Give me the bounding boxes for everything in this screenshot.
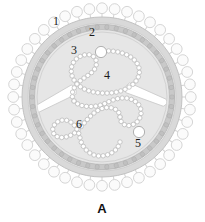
- nucleocapsid-bead: [127, 85, 131, 89]
- nucleocapsid-bead: [87, 53, 91, 57]
- surface-spike-glycoprotein: [16, 128, 30, 139]
- nucleocapsid-bead: [68, 133, 72, 137]
- matrix-ring-segment: [30, 104, 35, 109]
- surface-spike-glycoprotein: [11, 117, 26, 128]
- nucleocapsid-bead: [137, 66, 141, 70]
- surface-spike-glycoprotein: [122, 6, 133, 21]
- panel-letter: A: [97, 201, 107, 216]
- nucleocapsid-bead: [119, 119, 123, 123]
- nucleocapsid-bead: [106, 49, 110, 53]
- surface-spike-glycoprotein: [145, 163, 156, 177]
- virus-particle-figure: 123456 A: [0, 0, 205, 222]
- nucleocapsid-bead: [89, 104, 93, 108]
- surface-spike-glycoprotein: [29, 33, 42, 45]
- surface-spike-glycoprotein: [72, 173, 83, 188]
- surface-spike-glycoprotein: [174, 55, 188, 66]
- nucleocapsid-bead: [124, 53, 128, 57]
- nucleocapsid-bead: [72, 78, 76, 82]
- surface-spike-glycoprotein: [168, 140, 182, 151]
- matrix-ring-segment: [169, 104, 174, 109]
- nucleocapsid-bead: [116, 50, 120, 54]
- nucleocapsid-bead: [92, 153, 96, 157]
- nucleocapsid-bead: [88, 151, 92, 155]
- nucleocapsid-bead: [60, 118, 64, 122]
- nucleocapsid-bead: [96, 91, 100, 95]
- surface-spike-glycoprotein: [145, 17, 156, 31]
- nucleocapsid-bead: [91, 90, 95, 94]
- matrix-ring-segment: [30, 85, 35, 90]
- surface-spike-glycoprotein: [180, 79, 195, 90]
- callout-label-2: 2: [89, 25, 95, 39]
- surface-spike-glycoprotein: [162, 33, 175, 45]
- callout-label-6: 6: [76, 117, 82, 131]
- nucleocapsid-bead: [111, 98, 115, 102]
- surface-spike-glycoprotein: [109, 175, 120, 190]
- nucleocapsid-bead: [60, 135, 64, 139]
- surface-spike-glycoprotein: [180, 104, 195, 115]
- nucleocapsid-bead: [138, 107, 142, 111]
- surface-spike-glycoprotein: [60, 11, 71, 25]
- surface-spike-glycoprotein: [8, 92, 23, 103]
- matrix-ring-segment: [105, 25, 109, 30]
- nucleocapsid-bead: [104, 105, 108, 109]
- surface-spike-glycoprotein: [178, 67, 193, 78]
- nucleocapsid-bead: [70, 95, 74, 99]
- surface-spike-glycoprotein: [38, 157, 50, 170]
- surface-spike-glycoprotein: [29, 149, 42, 161]
- nucleocapsid-bead: [109, 91, 113, 95]
- nucleocapsid-bead: [96, 154, 100, 158]
- surface-spike-glycoprotein: [133, 11, 144, 25]
- nucleocapsid-bead: [114, 90, 118, 94]
- nucleocapsid-bead: [94, 63, 98, 67]
- nucleocapsid-bead: [64, 118, 68, 122]
- callout-label-3: 3: [71, 43, 77, 57]
- nucleocapsid-bead: [119, 89, 123, 93]
- callout-label-5: 5: [135, 136, 141, 150]
- matrix-ring-segment: [95, 164, 99, 169]
- surface-spike-glycoprotein: [97, 3, 108, 18]
- surface-spike-glycoprotein: [16, 55, 30, 66]
- nucleocapsid-bead: [131, 122, 135, 126]
- nucleocapsid-bead: [82, 87, 86, 91]
- nucleocapsid-bead: [87, 89, 91, 93]
- nucleocapsid-bead: [105, 91, 109, 95]
- matrix-ring-segment: [114, 26, 119, 31]
- matrix-ring-segment: [30, 95, 35, 99]
- nucleocapsid-bead: [123, 87, 127, 91]
- nucleocapsid-bead: [111, 49, 115, 53]
- nucleocapsid-bead: [69, 69, 73, 73]
- nucleocapsid-bead: [75, 102, 79, 106]
- nucleocapsid-bead: [109, 106, 113, 110]
- nucleocapsid-bead: [94, 58, 98, 62]
- matrix-ring-segment: [114, 163, 119, 168]
- nucleocapsid-bead: [70, 74, 74, 78]
- nucleocapsid-bead: [52, 131, 56, 135]
- surface-spike-glycoprotein: [9, 79, 24, 90]
- matrix-ring-segment: [85, 163, 90, 168]
- nucleocapsid-bead: [139, 111, 143, 115]
- nucleocapsid-bead: [137, 103, 141, 107]
- nucleocapsid-bead: [105, 153, 109, 157]
- nucleocapsid-bead: [107, 99, 111, 103]
- surface-spike-glycoprotein: [178, 117, 193, 128]
- nucleocapsid-bead: [136, 75, 140, 79]
- nucleocapsid-bead: [51, 127, 55, 131]
- surface-spike-glycoprotein: [49, 163, 60, 177]
- nucleocapsid-bead: [70, 90, 74, 94]
- nucleocapsid-bead: [125, 96, 129, 100]
- nucleocapsid-bead: [77, 131, 81, 135]
- nucleocapsid-bead: [100, 91, 104, 95]
- nucleocapsid-bead: [120, 96, 124, 100]
- nucleocapsid-bead: [118, 140, 122, 144]
- nucleocapsid-bead: [115, 96, 119, 100]
- polymerase-globule-upper: [95, 46, 106, 57]
- surface-spike-glycoprotein: [154, 157, 166, 170]
- nucleocapsid-bead: [78, 54, 82, 58]
- nucleocapsid-bead: [113, 107, 117, 111]
- nucleocapsid-bead: [94, 104, 98, 108]
- nucleocapsid-bead: [137, 70, 141, 74]
- matrix-ring-segment: [105, 164, 109, 169]
- surface-spike-glycoprotein: [9, 104, 24, 115]
- nucleocapsid-bead: [56, 120, 60, 124]
- nucleocapsid-bead: [120, 51, 124, 55]
